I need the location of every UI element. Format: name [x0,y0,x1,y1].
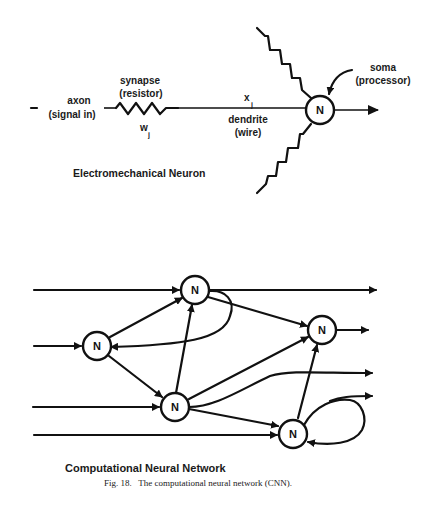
soma-sublabel: (processor) [355,75,410,86]
dendrite-sublabel: (wire) [235,127,262,138]
electromechanical-neuron-title: Electromechanical Neuron [73,167,205,179]
network-node-n2-label: N [93,340,101,352]
network-node-n3-label: N [171,401,179,413]
input-subscript: j [250,101,253,109]
electromechanical-neuron-diagram: N axon (signal in) synapse (resistor) w … [31,28,411,193]
network-node-n4-label: N [318,324,326,336]
output-arrow-3 [189,372,372,407]
upper-dendrite-zigzag-icon [257,28,311,98]
axon-label: axon [67,95,90,106]
edge-n1-n4 [208,297,307,326]
edge-n2-n3 [109,356,162,397]
input-label: x [244,92,250,103]
weight-label: w [139,122,148,133]
synapse-label: synapse [120,75,160,86]
edge-n3-n1 [176,305,192,393]
computational-neural-network-diagram: N N N N N Computational Neural Network [33,276,376,474]
weight-subscript: j [147,131,150,139]
edge-n3-n4 [189,337,308,399]
figure-canvas: N axon (signal in) synapse (resistor) w … [0,0,427,510]
dendrite-label: dendrite [228,114,268,125]
edge-n5-n4 [298,345,317,418]
soma-label: soma [370,62,397,73]
axon-sublabel: (signal in) [48,109,95,120]
soma-pointer-arrow [329,70,352,94]
lower-dendrite-zigzag-icon [257,124,311,193]
network-node-n1-label: N [191,284,199,296]
computational-neural-network-title: Computational Neural Network [65,462,227,474]
soma-node-label: N [316,104,324,116]
edge-n5-self-loop [304,400,364,444]
figure-caption: Fig. 18. The computational neural networ… [104,478,292,488]
synapse-sublabel: (resistor) [119,88,162,99]
network-node-n5-label: N [289,428,297,440]
edge-n3-n5 [189,409,278,426]
resistor-zigzag-icon [116,103,178,114]
edge-n2-n1 [110,298,182,337]
